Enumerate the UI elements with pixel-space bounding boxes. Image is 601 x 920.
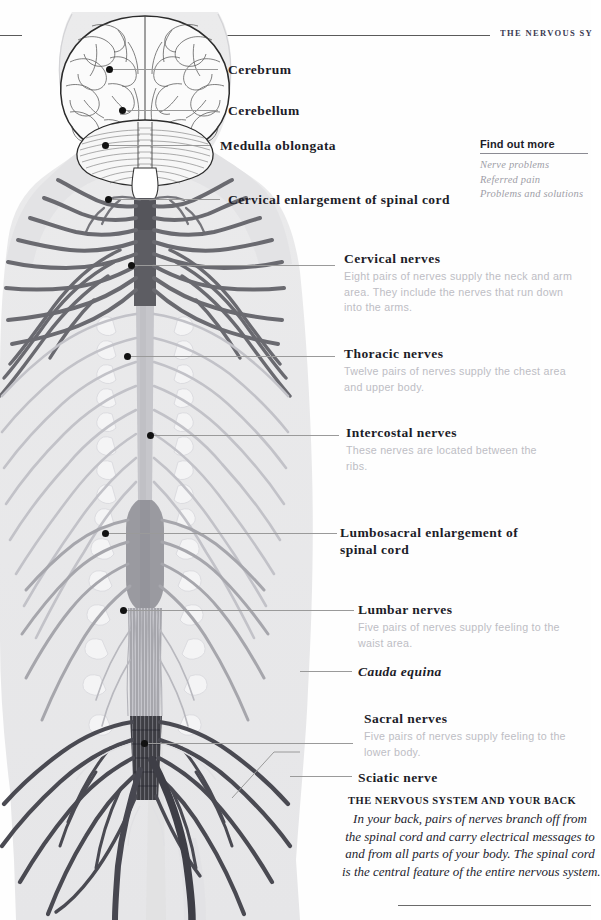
find-out-more-item-referred-pain[interactable]: Referred pain: [480, 173, 588, 188]
label-cerebellum: Cerebellum: [228, 102, 300, 119]
label-intercostal-nerves-desc: These nerves are located between the rib…: [346, 443, 546, 474]
leader-line-cervical-nerves: [135, 265, 335, 266]
label-intercostal-nerves: Intercostal nerves These nerves are loca…: [346, 424, 546, 474]
label-medulla-oblongata: Medulla oblongata: [220, 137, 336, 154]
label-cauda-equina: Cauda equina: [358, 663, 442, 680]
thoracic-spinal-cord: [136, 306, 154, 500]
leader-line-thoracic-nerves: [131, 356, 335, 357]
label-sacral-nerves-title: Sacral nerves: [364, 710, 574, 727]
label-intercostal-nerves-title: Intercostal nerves: [346, 424, 546, 441]
callout-line-1: In your back, pairs of nerves branch off…: [342, 810, 598, 828]
find-out-more-item-nerve-problems[interactable]: Nerve problems: [480, 158, 588, 173]
leader-dot-sacral-nerves: [141, 740, 148, 747]
leader-dot-intercostal-nerves: [147, 432, 154, 439]
leader-line-intercostal-nerves: [154, 435, 339, 436]
find-out-more-box: Find out more Nerve problems Referred pa…: [480, 138, 588, 202]
label-sciatic-nerve-title: Sciatic nerve: [358, 769, 438, 786]
find-out-more-title: Find out more: [480, 138, 588, 150]
page-header-title: THE NERVOUS SY: [500, 28, 595, 38]
leader-dot-medulla: [102, 142, 109, 149]
leader-line-cervical-enlargement: [112, 199, 220, 200]
leader-dot-thoracic-nerves: [124, 353, 131, 360]
label-sacral-nerves-desc: Five pairs of nerves supply feeling to t…: [364, 729, 574, 760]
label-thoracic-nerves-title: Thoracic nerves: [344, 345, 576, 362]
label-lumbar-nerves: Lumbar nerves Five pairs of nerves suppl…: [358, 601, 586, 651]
callout-line-2: the spinal cord and carry electrical mes…: [342, 828, 598, 846]
label-cerebrum-title: Cerebrum: [228, 61, 291, 78]
label-cervical-enlargement: Cervical enlargement of spinal cord: [228, 191, 450, 208]
callout-bottom-rule: [398, 905, 591, 906]
leader-line-cerebellum: [126, 110, 218, 111]
leader-dot-cervical-enlargement: [105, 196, 112, 203]
leader-line-lumbosacral: [109, 533, 337, 534]
leader-line-sciatic-nerve-diagonal: [230, 740, 300, 800]
leader-dot-lumbosacral: [102, 530, 109, 537]
label-cervical-enlargement-title: Cervical enlargement of spinal cord: [228, 191, 450, 208]
label-sacral-nerves: Sacral nerves Five pairs of nerves suppl…: [364, 710, 574, 760]
callout-line-4: is the central feature of the entire ner…: [342, 863, 598, 881]
label-medulla-title: Medulla oblongata: [220, 137, 336, 154]
leader-line-lumbar-nerves: [127, 610, 354, 611]
find-out-more-rule: [480, 153, 588, 154]
leader-dot-cerebellum: [119, 107, 126, 114]
lumbosacral-enlargement: [126, 500, 164, 610]
label-lumbar-nerves-title: Lumbar nerves: [358, 601, 586, 618]
label-cauda-equina-title: Cauda equina: [358, 663, 442, 680]
label-thoracic-nerves-desc: Twelve pairs of nerves supply the chest …: [344, 364, 576, 395]
leader-line-medulla: [109, 145, 210, 146]
leader-dot-cervical-nerves: [128, 262, 135, 269]
callout-line-3: and from all parts of your body. The spi…: [342, 845, 598, 863]
find-out-more-item-problems-and-solutions[interactable]: Problems and solutions: [480, 187, 588, 202]
label-cervical-nerves-title: Cervical nerves: [344, 250, 576, 267]
callout-box: THE NERVOUS SYSTEM AND YOUR BACK In your…: [348, 795, 598, 880]
label-lumbosacral-title: Lumbosacral enlargement of spinal cord: [340, 524, 520, 558]
callout-title: THE NERVOUS SYSTEM AND YOUR BACK: [348, 795, 598, 806]
label-cervical-nerves-desc: Eight pairs of nerves supply the neck an…: [344, 269, 576, 316]
label-lumbosacral-enlargement: Lumbosacral enlargement of spinal cord: [340, 524, 520, 558]
label-cerebellum-title: Cerebellum: [228, 102, 300, 119]
leader-dot-cerebrum: [106, 66, 113, 73]
leader-line-cerebrum: [113, 69, 218, 70]
label-cervical-nerves: Cervical nerves Eight pairs of nerves su…: [344, 250, 576, 316]
label-sciatic-nerve: Sciatic nerve: [358, 769, 438, 786]
label-lumbar-nerves-desc: Five pairs of nerves supply feeling to t…: [358, 620, 586, 651]
leader-line-cauda-equina: [300, 671, 352, 672]
label-cerebrum: Cerebrum: [228, 61, 291, 78]
label-thoracic-nerves: Thoracic nerves Twelve pairs of nerves s…: [344, 345, 576, 395]
callout-body: In your back, pairs of nerves branch off…: [348, 810, 598, 880]
leader-dot-lumbar-nerves: [120, 607, 127, 614]
